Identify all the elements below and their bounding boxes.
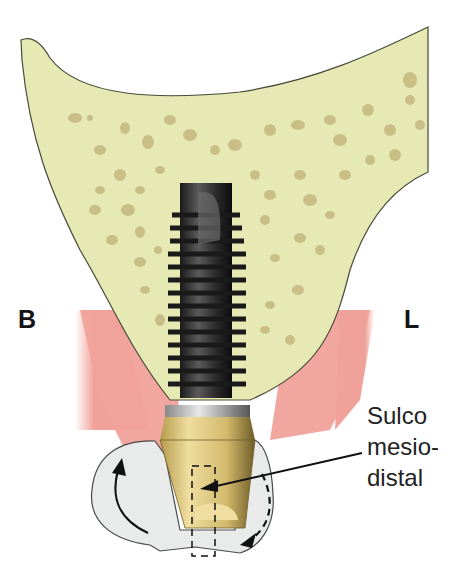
callout-line-3: distal xyxy=(367,462,439,493)
buccal-label: B xyxy=(18,305,36,334)
callout-line-1: Sulco xyxy=(367,400,439,431)
implant-collar xyxy=(165,405,250,417)
lingual-label: L xyxy=(404,305,419,334)
callout-line-2: mesio- xyxy=(367,431,439,462)
callout-label: Sulco mesio- distal xyxy=(367,400,439,493)
